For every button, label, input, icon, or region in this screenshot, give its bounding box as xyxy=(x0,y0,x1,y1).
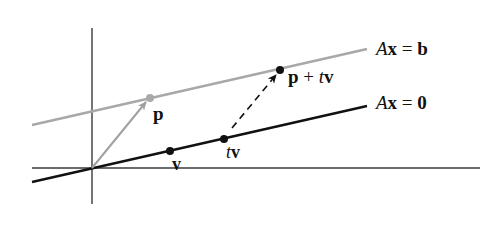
label-ax-0-eq: = xyxy=(397,92,417,113)
label-ax-b-x: x xyxy=(388,38,398,59)
label-v: v xyxy=(172,155,181,173)
point-p-plus-tv xyxy=(276,66,284,74)
label-p: p xyxy=(153,104,164,123)
label-ax-0-rhs: 0 xyxy=(417,92,427,113)
label-ax-0: Ax = 0 xyxy=(376,93,427,112)
label-p-plus-tv: p + tv xyxy=(288,67,334,86)
solution-line xyxy=(32,49,367,125)
label-ax-b-rhs: b xyxy=(417,38,428,59)
label-ptv-v: v xyxy=(324,66,334,87)
label-tv: tv xyxy=(226,143,240,161)
translation-arrow xyxy=(232,75,276,128)
label-ptv-plus: + xyxy=(299,66,319,87)
label-ax-b-eq: = xyxy=(397,38,417,59)
label-ax-b: Ax = b xyxy=(376,39,428,58)
homogeneous-line xyxy=(32,106,367,182)
label-ax-0-x: x xyxy=(388,92,398,113)
point-p xyxy=(146,94,154,102)
label-tv-v: v xyxy=(231,142,240,162)
label-ax-b-A: A xyxy=(376,38,388,59)
label-ptv-p: p xyxy=(288,66,299,87)
label-ax-0-A: A xyxy=(376,92,388,113)
